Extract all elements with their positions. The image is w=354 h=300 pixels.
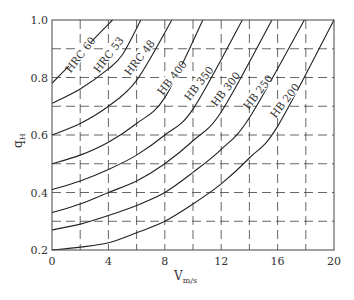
x-tick-label: 4 [105,255,112,268]
y-tick-label: 0.4 [31,187,49,200]
y-tick-label: 0.2 [31,244,49,257]
y-axis-ticks: 0.20.40.60.81.0 [31,14,49,257]
y-axis-label: qH [11,133,27,148]
curve-label: HRC 48 [122,37,157,77]
x-tick-label: 20 [327,255,341,268]
x-axis-label: Vm/s [173,269,197,285]
x-tick-label: 16 [271,255,285,268]
x-tick-label: 8 [161,255,168,268]
curve-label: HB 250 [241,72,275,111]
y-tick-label: 0.8 [31,72,49,85]
y-tick-label: 0.6 [31,129,49,142]
x-tick-label: 12 [214,255,228,268]
x-tick-label: 0 [49,255,56,268]
y-tick-label: 1.0 [31,14,49,27]
x-axis-ticks: 048121620 [49,255,342,268]
grid-lines [52,20,334,250]
curve-label: HB 300 [208,69,242,108]
chart: HRC 60HRC 53HRC 48HB 400HB 350HB 300HB 2… [0,0,354,300]
